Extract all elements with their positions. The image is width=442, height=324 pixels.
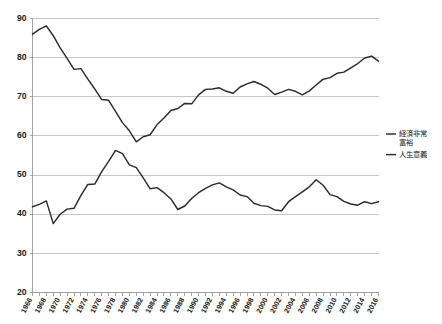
x-tick-label-2016: 2016: [365, 296, 380, 314]
x-tick-label-1976: 1976: [88, 296, 103, 314]
x-tick-label-1984: 1984: [143, 296, 158, 314]
x-tick-label-1998: 1998: [240, 296, 255, 314]
y-tick-label-40: 40: [17, 208, 27, 218]
line-chart: 2030405060708090 19661968197019721974197…: [0, 0, 442, 324]
tickmarks-group: [30, 19, 379, 296]
y-tick-label-80: 80: [17, 52, 27, 62]
y-tick-label-30: 30: [17, 248, 27, 258]
x-tick-label-1996: 1996: [226, 296, 241, 314]
x-tick-label-2012: 2012: [337, 296, 352, 314]
x-tick-label-2006: 2006: [296, 296, 311, 314]
y-tick-label-20: 20: [17, 287, 27, 297]
y-tick-label-90: 90: [17, 13, 27, 23]
x-axis-tick-labels: 1966196819701972197419761978198019821984…: [19, 296, 380, 314]
x-tick-label-1982: 1982: [130, 296, 145, 314]
x-tick-label-1980: 1980: [116, 296, 131, 314]
x-tick-label-1992: 1992: [199, 296, 214, 314]
y-tick-label-70: 70: [17, 91, 27, 101]
chart-plot-area: 2030405060708090 19661968197019721974197…: [0, 0, 442, 324]
x-tick-label-1978: 1978: [102, 296, 117, 314]
x-tick-label-2014: 2014: [351, 296, 366, 314]
x-tick-label-1986: 1986: [157, 296, 172, 314]
y-tick-label-50: 50: [17, 169, 27, 179]
series-line-0: [33, 150, 379, 223]
x-tick-label-2004: 2004: [282, 296, 297, 314]
x-tick-label-1970: 1970: [46, 296, 61, 314]
chart-legend: 経済非常富裕人生意義: [386, 129, 428, 159]
x-tick-label-1974: 1974: [74, 296, 89, 314]
x-tick-label-2010: 2010: [323, 296, 338, 314]
legend-label-1-0: 人生意義: [399, 150, 428, 159]
gridlines-group: [33, 19, 379, 293]
x-tick-label-2002: 2002: [268, 296, 283, 314]
series-lines-group: [33, 26, 379, 224]
x-tick-label-1988: 1988: [171, 296, 186, 314]
y-axis-tick-labels: 2030405060708090: [17, 13, 27, 297]
series-line-1: [33, 26, 379, 142]
y-tick-label-60: 60: [17, 130, 27, 140]
x-tick-label-2008: 2008: [309, 296, 324, 314]
legend-label-0-1: 富裕: [399, 138, 414, 147]
x-tick-label-1972: 1972: [60, 296, 75, 314]
x-tick-label-1994: 1994: [213, 296, 228, 314]
x-tick-label-2000: 2000: [254, 296, 269, 314]
x-tick-label-1966: 1966: [19, 296, 34, 314]
x-tick-label-1968: 1968: [33, 296, 48, 314]
x-tick-label-1990: 1990: [185, 296, 200, 314]
